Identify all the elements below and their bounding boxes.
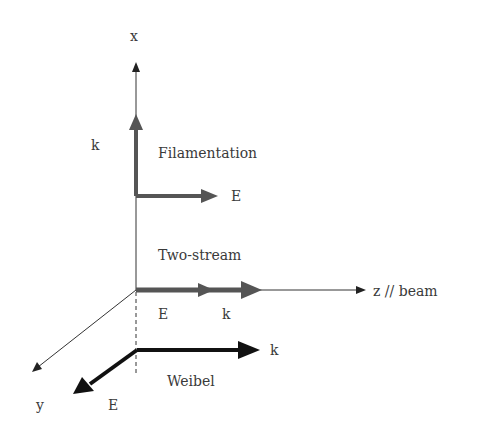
z-axis-label: z // beam (373, 284, 438, 298)
weibel-title: Weibel (167, 374, 215, 388)
x-axis-arrowhead-icon (132, 62, 140, 72)
weibel-E-label: E (108, 398, 118, 412)
weibel-k-label: k (270, 343, 278, 357)
filamentation-E-arrowhead-icon (201, 189, 218, 203)
two-stream-k-arrowhead-icon (241, 281, 262, 299)
filamentation-k-arrowhead-icon (129, 114, 143, 130)
weibel-E-arrowhead-icon (73, 377, 94, 394)
filamentation-k-label: k (91, 138, 99, 152)
two-stream-E-label: E (158, 307, 168, 321)
filamentation-title: Filamentation (158, 146, 257, 160)
x-axis-label: x (130, 29, 138, 43)
diagram-canvas (0, 0, 483, 433)
z-axis-arrowhead-icon (356, 286, 366, 294)
weibel-k-arrowhead-icon (238, 341, 260, 359)
two-stream-vectors (136, 281, 262, 299)
y-axis-label: y (36, 398, 44, 412)
axes (32, 62, 366, 373)
weibel-E-arrow (90, 350, 137, 384)
y-axis-line (38, 290, 136, 367)
instability-diagram: x y z // beam k Filamentation E Two-stre… (0, 0, 483, 433)
two-stream-k-label: k (222, 307, 230, 321)
y-axis-arrowhead-icon (32, 362, 42, 372)
filamentation-E-label: E (231, 189, 241, 203)
two-stream-title: Two-stream (158, 248, 241, 262)
two-stream-E-arrowhead-icon (198, 283, 214, 297)
